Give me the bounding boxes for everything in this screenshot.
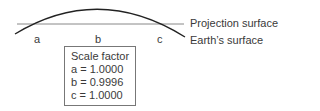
scale-factor-box: Scale factor a = 1.0000 b = 0.9996 c = 1… <box>64 46 136 106</box>
scale-factor-c: c = 1.0000 <box>71 89 135 102</box>
scale-factor-a: a = 1.0000 <box>71 63 135 76</box>
point-b-label: b <box>95 33 101 45</box>
point-a-label: a <box>34 33 40 45</box>
projection-surface-label: Projection surface <box>190 17 278 29</box>
scale-factor-b: b = 0.9996 <box>71 76 135 89</box>
point-c-label: c <box>157 33 163 45</box>
scale-factor-title: Scale factor <box>71 50 135 63</box>
earths-surface-label: Earth’s surface <box>190 34 263 46</box>
